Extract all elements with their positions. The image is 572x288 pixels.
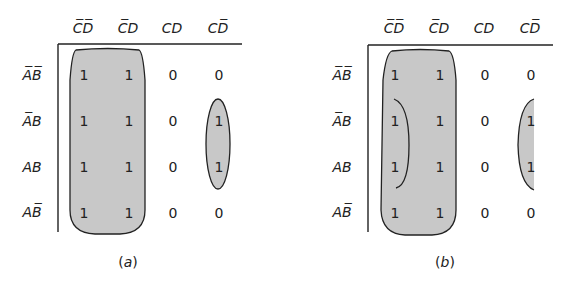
cell: 1 [80,205,89,221]
cell: 1 [436,113,445,129]
row-header: AB̅ [22,204,41,220]
row-header: AB [22,159,41,175]
row-header: A̅B [332,113,351,129]
cell: 1 [391,113,400,129]
cell: 1 [125,159,134,175]
cell: 0 [169,159,178,175]
row-header: A̅B̅ [22,67,41,83]
cell: 0 [481,205,490,221]
row-header: AB̅ [332,204,351,220]
cell: 1 [125,67,134,83]
row-header: AB [332,159,351,175]
col-header: C̅D̅ [384,20,405,36]
row-header: A̅B̅ [332,67,351,83]
caption-a: (a) [118,254,138,270]
col-header: C̅D [429,20,450,36]
cell: 1 [80,159,89,175]
cell: 1 [215,113,224,129]
cell: 0 [215,67,224,83]
cell: 0 [481,159,490,175]
cell: 0 [481,113,490,129]
cell: 1 [125,205,134,221]
cell: 0 [481,67,490,83]
cell: 1 [391,67,400,83]
cell: 1 [527,113,536,129]
cell: 1 [391,205,400,221]
cell: 1 [436,205,445,221]
cell: 0 [215,205,224,221]
diagram-graphics [0,0,572,288]
col-header: CD̅ [520,20,541,36]
cell: 0 [169,113,178,129]
caption-b: (b) [435,254,455,270]
cell: 1 [391,159,400,175]
cell: 1 [80,113,89,129]
col-header: CD [162,20,183,36]
col-header: CD̅ [208,20,229,36]
cell: 1 [527,159,536,175]
col-header: C̅D̅ [73,20,94,36]
cell: 0 [527,205,536,221]
kmap-b-loops [381,50,534,236]
cell: 1 [125,113,134,129]
cell: 1 [436,67,445,83]
col-header: CD [474,20,495,36]
row-header: A̅B [22,113,41,129]
cell: 1 [436,159,445,175]
cell: 1 [215,159,224,175]
cell: 0 [527,67,536,83]
cell: 1 [80,67,89,83]
col-header: C̅D [118,20,139,36]
cell: 0 [169,67,178,83]
cell: 0 [169,205,178,221]
kmap-a-loops [70,49,230,235]
